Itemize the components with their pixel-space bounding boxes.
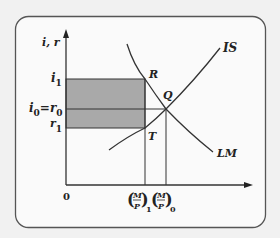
- svg-text:0: 0: [170, 204, 176, 214]
- shaded-region: [66, 79, 145, 128]
- point-r-label: R: [148, 68, 158, 81]
- svg-text:P: P: [157, 201, 165, 211]
- point-q-label: Q: [163, 89, 173, 102]
- y-axis-label: i, r: [42, 36, 61, 49]
- is-lm-diagram: i, r i1 i0=r0 r1 0 ( M P ) 1 ( M P ) 0 R…: [0, 0, 280, 238]
- diagram-stage: i, r i1 i0=r0 r1 0 ( M P ) 1 ( M P ) 0 R…: [0, 0, 280, 238]
- point-t-label: T: [148, 130, 157, 143]
- lm-curve-label: LM: [216, 147, 238, 160]
- svg-text:P: P: [133, 201, 141, 211]
- is-curve-label: IS: [222, 41, 238, 55]
- origin-label: 0: [63, 191, 70, 202]
